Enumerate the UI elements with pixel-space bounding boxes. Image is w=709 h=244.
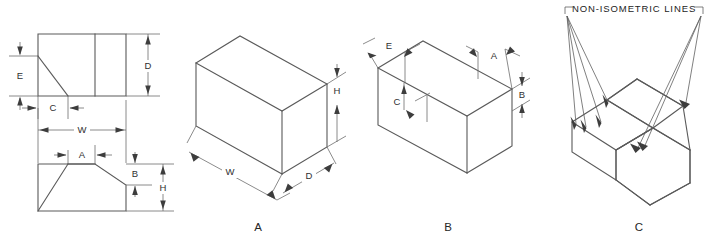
dimension-label-w-iso-a: W xyxy=(225,166,234,177)
iso-b-box xyxy=(378,41,512,173)
dimension-label-a-iso-b: A xyxy=(491,50,498,61)
dimension-label-h-iso-a: H xyxy=(333,85,340,96)
dimension-label-w: W xyxy=(77,124,86,135)
dimension-label-d-iso-a: D xyxy=(305,170,312,181)
dimension-c-top-view: C xyxy=(22,96,84,119)
iso-a-box xyxy=(196,36,327,174)
view-label-b: B xyxy=(444,221,452,233)
orthographic-multiview: E C D xyxy=(9,34,174,211)
dimension-label-a: A xyxy=(79,149,86,160)
dimension-c-iso-b: C xyxy=(393,83,430,122)
isometric-view-a: H W D A xyxy=(187,36,346,233)
dimension-a-iso-b: A xyxy=(466,46,520,89)
dimension-w-iso-a: W xyxy=(187,126,282,200)
dimension-label-c: C xyxy=(49,102,56,113)
technical-drawing-figure: E C D xyxy=(0,0,709,244)
dimension-label-b-iso-b: B xyxy=(519,89,526,100)
dimension-label-h: H xyxy=(159,182,166,193)
dimension-label-b: B xyxy=(132,168,139,179)
dimension-label-e: E xyxy=(17,70,24,81)
dimension-b-front-view: B xyxy=(126,152,152,197)
dimension-d-iso-a: D xyxy=(277,147,336,200)
dimension-e-top-view: E xyxy=(9,42,38,110)
note-label: NON-ISOMETRIC LINES xyxy=(572,3,696,14)
iso-c-solid xyxy=(572,79,690,205)
dimension-d-top-view: D xyxy=(126,34,160,96)
dimension-label-e-iso-b: E xyxy=(386,40,393,51)
non-isometric-lines-note: NON-ISOMETRIC LINES xyxy=(565,3,703,14)
top-view-outline xyxy=(38,34,126,96)
view-label-c: C xyxy=(635,221,643,233)
dimension-label-c-iso-b: C xyxy=(393,96,400,107)
view-label-a: A xyxy=(254,221,262,233)
dimension-h-iso-a: H xyxy=(327,64,346,147)
drawing-canvas: E C D xyxy=(0,0,709,244)
front-view-outline xyxy=(38,164,126,211)
dimension-a-front-view: A xyxy=(54,145,112,164)
leader-lines-right xyxy=(630,16,701,153)
isometric-view-b: E A B C xyxy=(363,38,530,233)
dimension-label-d: D xyxy=(144,60,151,71)
isometric-view-c: NON-ISOMETRIC LINES xyxy=(565,3,703,234)
dimension-b-iso-b: B xyxy=(512,72,530,118)
leader-lines-left xyxy=(567,16,609,133)
